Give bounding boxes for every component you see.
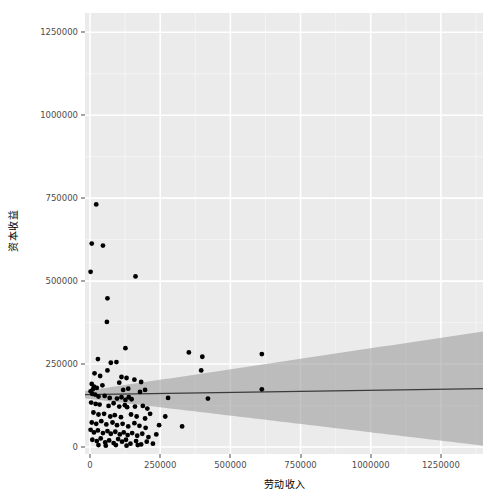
x-tick-label: 750000 [284, 460, 316, 470]
scatter-plot-figure: 资本收益 025000050000075000010000001250000 0… [0, 0, 493, 503]
y-tick-label: 250000 [24, 359, 78, 369]
y-tick-label: 500000 [24, 276, 78, 286]
y-tick-label: 0 [24, 442, 78, 452]
x-tick-label: 500000 [214, 460, 246, 470]
y-tick-label: 1000000 [24, 110, 78, 120]
plot-canvas [85, 13, 483, 454]
x-tick-mark [300, 454, 301, 458]
x-tick-mark [370, 454, 371, 458]
x-axis-title: 劳动收入 [86, 476, 483, 491]
y-tick-label: 750000 [24, 193, 78, 203]
x-tick-label: 1250000 [422, 460, 460, 470]
x-tick-label: 1000000 [352, 460, 390, 470]
y-axis-title-text: 资本收益 [5, 209, 20, 251]
x-tick-mark [440, 454, 441, 458]
plot-panel [85, 13, 483, 454]
x-tick-mark [230, 454, 231, 458]
x-axis-title-text: 劳动收入 [264, 479, 306, 490]
x-tick-mark [90, 454, 91, 458]
y-tick-label: 1250000 [24, 27, 78, 37]
x-tick-label: 250000 [144, 460, 176, 470]
x-tick-label: 0 [87, 460, 92, 470]
y-axis-title: 资本收益 [0, 0, 24, 460]
x-tick-mark [160, 454, 161, 458]
